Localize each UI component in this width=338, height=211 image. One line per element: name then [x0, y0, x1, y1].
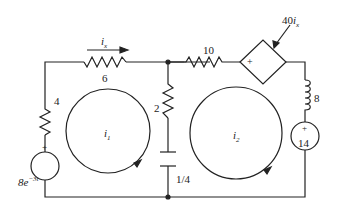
- wires: [45, 62, 305, 197]
- junction-bottom: [166, 195, 170, 199]
- label-dep-source: 40ix: [282, 15, 299, 29]
- dep-source-sign: +: [247, 57, 253, 67]
- inductor: [305, 80, 310, 112]
- label-i1: i1: [104, 128, 111, 142]
- circuit-diagram: [0, 0, 338, 211]
- label-r4: 4: [54, 96, 60, 107]
- label-v-left: 8e−3t: [18, 176, 39, 188]
- label-c: 1/4: [176, 174, 190, 185]
- label-v-right: 14: [298, 138, 309, 149]
- label-ix: ix: [101, 36, 107, 50]
- v-right-sign: +: [302, 124, 307, 133]
- loop-arrow-i1: [134, 160, 141, 167]
- ix-arrow: [87, 47, 128, 53]
- label-r2: 2: [154, 103, 160, 114]
- v-left-sign: +: [42, 143, 47, 152]
- capacitor: [160, 152, 176, 166]
- resistor-2: [163, 82, 173, 118]
- label-i2: i2: [233, 130, 240, 144]
- resistor-6: [84, 57, 126, 67]
- label-inductor: 8: [314, 93, 320, 104]
- label-r6: 6: [102, 73, 108, 84]
- junction-top: [166, 60, 170, 64]
- label-r10: 10: [203, 45, 214, 56]
- resistor-4: [40, 107, 50, 135]
